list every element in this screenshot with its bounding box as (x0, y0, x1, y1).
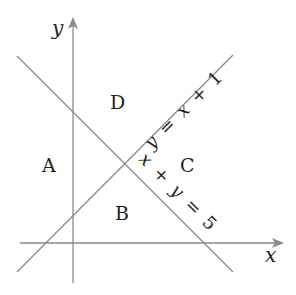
region-label-a: A (41, 154, 56, 176)
line-1-label-x: x (172, 99, 194, 121)
x-axis-label: x (265, 243, 276, 267)
line-2-label-eq: = (181, 194, 207, 220)
region-label-b: B (115, 202, 129, 224)
region-label-d: D (110, 91, 125, 113)
line-1-label-plus: + (186, 82, 212, 108)
svg-text:x + y =: x + y = 5 (135, 148, 221, 234)
line-1-label-one: 1 (203, 67, 226, 90)
line-2-label-five: 5 (198, 211, 221, 234)
line-2-label: x + y = 5 (135, 148, 221, 234)
line-1-label: y = x + 1 (139, 67, 226, 154)
svg-text:y = x +: y = x + 1 (139, 67, 226, 154)
line-2-label-y: y (166, 179, 189, 202)
line-2-label-x: x (135, 148, 157, 170)
line-1-label-eq: = (154, 113, 180, 139)
coordinate-diagram: y x D A B C y = x + 1 x + y = 5 (0, 0, 296, 295)
line-2-label-plus: + (149, 162, 175, 188)
y-axis-label: y (51, 16, 64, 40)
region-label-c: C (180, 154, 195, 176)
